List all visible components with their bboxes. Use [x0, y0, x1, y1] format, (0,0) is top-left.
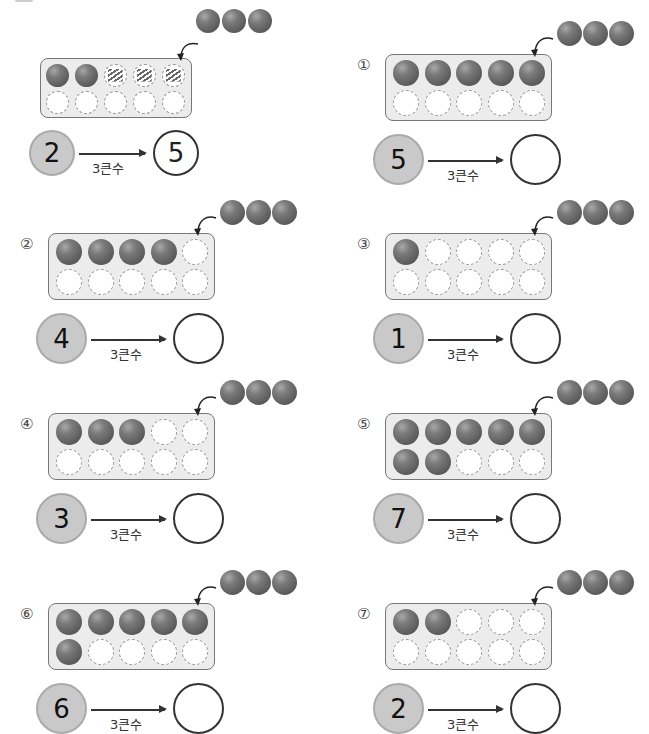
ten-frame-cell [119, 449, 145, 475]
start-number-circle: 4 [36, 313, 87, 364]
ten-frame-cell [162, 91, 185, 114]
ten-frame-cell [456, 639, 482, 665]
ten-frame-cell [425, 639, 451, 665]
extra-ball [557, 570, 582, 595]
ten-frame-cell [151, 639, 177, 665]
start-number-circle: 3 [36, 493, 87, 544]
ten-frame-cell [46, 91, 69, 114]
ten-frame-cell [393, 269, 419, 295]
ten-frame-cell [119, 239, 145, 265]
problem-number-label: ① [357, 56, 370, 74]
rule-label: 3큰수 [92, 158, 124, 177]
problem-number-label: ④ [20, 415, 33, 433]
ten-frame-cell [162, 64, 185, 87]
ten-frame-cell [425, 609, 451, 635]
add-arrow-icon [188, 211, 218, 239]
add-arrow-icon [188, 391, 218, 419]
ten-frame-cell [488, 239, 514, 265]
ten-frame-cell [488, 609, 514, 635]
extra-ball [583, 200, 608, 225]
start-number-circle: 2 [373, 683, 424, 734]
ten-frame-cell [456, 609, 482, 635]
start-number-circle: 1 [373, 313, 424, 364]
rule-label: 3큰수 [447, 165, 479, 184]
answer-input-circle[interactable] [173, 313, 224, 364]
ten-frame-cell [425, 239, 451, 265]
ten-frame-cell [56, 609, 82, 635]
extra-ball [222, 9, 246, 33]
extra-ball [583, 21, 608, 46]
problem-number-label: ⑤ [357, 415, 370, 433]
answer-input-circle[interactable] [173, 493, 224, 544]
ten-frame-cell [119, 269, 145, 295]
ten-frame-cell [519, 269, 545, 295]
ten-frame-cell [88, 269, 114, 295]
ten-frame-cell [425, 60, 451, 86]
ten-frame-cell [488, 449, 514, 475]
ten-frame-cell [456, 449, 482, 475]
answer-circle: 5 [153, 130, 199, 176]
ten-frame-cell [151, 269, 177, 295]
problem-number-label: ② [20, 235, 33, 253]
add-arrow-icon [188, 581, 218, 609]
ten-frame-cell [119, 419, 145, 445]
ten-frame-cell [75, 64, 98, 87]
add-arrow-icon [525, 211, 555, 239]
ten-frame-cell [425, 419, 451, 445]
rule-arrow [428, 709, 502, 711]
ten-frame-cell [393, 90, 419, 116]
add-arrow-icon [172, 38, 200, 64]
ten-frame-cell [488, 90, 514, 116]
problem-number-label: ⑥ [20, 605, 33, 623]
ten-frame-cell [56, 269, 82, 295]
ten-frame-cell [56, 419, 82, 445]
ten-frame-cell [393, 639, 419, 665]
answer-input-circle[interactable] [173, 683, 224, 734]
ten-frame-cell [88, 239, 114, 265]
extra-ball [272, 200, 297, 225]
extra-ball [246, 200, 271, 225]
problem-number-label: ③ [357, 235, 370, 253]
ten-frame-cell [488, 639, 514, 665]
ten-frame-cell [56, 449, 82, 475]
ten-frame-cell [488, 269, 514, 295]
rule-label: 3큰수 [110, 524, 142, 543]
ten-frame-cell [393, 419, 419, 445]
ten-frame-cell [75, 91, 98, 114]
ten-frame-cell [151, 449, 177, 475]
extra-ball [220, 200, 245, 225]
rule-arrow [91, 519, 165, 521]
add-arrow-icon [525, 32, 555, 60]
ten-frame-cell [151, 609, 177, 635]
extra-ball [272, 380, 297, 405]
rule-arrow [91, 339, 165, 341]
extra-ball [272, 570, 297, 595]
extra-ball [248, 9, 272, 33]
ten-frame-cell [519, 419, 545, 445]
ten-frame-cell [133, 91, 156, 114]
ten-frame-cell [104, 64, 127, 87]
ten-frame-cell [56, 639, 82, 665]
ten-frame-cell [119, 609, 145, 635]
answer-input-circle[interactable] [510, 493, 561, 544]
rule-arrow [79, 153, 145, 155]
ten-frame-cell [393, 239, 419, 265]
ten-frame-cell [182, 449, 208, 475]
answer-input-circle[interactable] [510, 134, 561, 185]
extra-ball [583, 380, 608, 405]
rule-label: 3큰수 [110, 344, 142, 363]
ten-frame-cell [88, 449, 114, 475]
rule-arrow [428, 339, 502, 341]
answer-input-circle[interactable] [510, 683, 561, 734]
ten-frame-cell [88, 609, 114, 635]
ten-frame-cell [182, 419, 208, 445]
add-arrow-icon [525, 391, 555, 419]
extra-ball [583, 570, 608, 595]
rule-arrow [428, 160, 502, 162]
extra-ball [220, 570, 245, 595]
ten-frame-cell [393, 449, 419, 475]
ten-frame-cell [488, 60, 514, 86]
answer-input-circle[interactable] [510, 313, 561, 364]
extra-ball [557, 380, 582, 405]
ten-frame-cell [46, 64, 69, 87]
